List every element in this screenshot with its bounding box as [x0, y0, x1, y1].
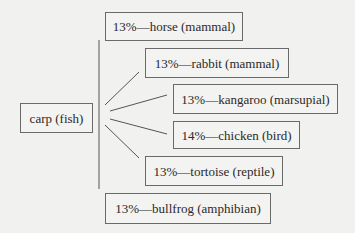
target-label: 13%—horse (mammal) [113, 20, 235, 33]
target-node-horse: 13%—horse (mammal) [105, 12, 243, 41]
target-label: 13%—tortoise (reptile) [154, 165, 275, 178]
source-node-carp: carp (fish) [20, 103, 93, 133]
connector-tortoise [105, 125, 139, 158]
connector-chicken [110, 119, 167, 134]
target-node-rabbit: 13%—rabbit (mammal) [145, 48, 289, 78]
connector-kangaroo [110, 95, 167, 111]
source-label: carp (fish) [30, 112, 84, 125]
target-node-kangaroo: 13%—kangaroo (marsupial) [173, 84, 338, 114]
target-node-chicken: 14%—chicken (bird) [173, 121, 300, 149]
connector-rabbit [105, 72, 139, 105]
target-label: 13%—bullfrog (amphibian) [115, 202, 261, 215]
target-node-tortoise: 13%—tortoise (reptile) [145, 156, 283, 186]
target-label: 14%—chicken (bird) [181, 129, 291, 142]
target-node-bullfrog: 13%—bullfrog (amphibian) [105, 193, 271, 224]
target-label: 13%—kangaroo (marsupial) [181, 93, 329, 106]
target-label: 13%—rabbit (mammal) [155, 57, 280, 70]
